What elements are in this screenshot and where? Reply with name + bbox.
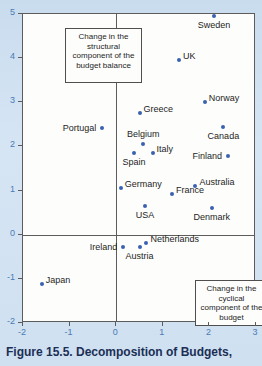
- data-point-label: Japan: [46, 276, 71, 285]
- y-axis-tick-label: 4: [0, 52, 15, 61]
- x-axis-tick-label: 1: [142, 328, 182, 337]
- annotation-cyclical: Change in the cyclical component of the …: [195, 280, 262, 326]
- data-point: [177, 58, 181, 62]
- y-axis-tick-label: 3: [0, 96, 15, 105]
- data-point-label: Canada: [208, 132, 240, 141]
- x-axis-tick: [255, 322, 256, 326]
- data-point-label: Ireland: [90, 243, 118, 252]
- scatter-plot-area: SwedenUKNorwayGreeceCanadaPortugalBelgiu…: [22, 13, 255, 322]
- y-axis-tick-label: 1: [0, 185, 15, 194]
- y-axis-tick: [18, 278, 22, 279]
- data-point: [138, 111, 142, 115]
- data-point: [226, 154, 230, 158]
- data-point-label: Netherlands: [150, 235, 199, 244]
- data-point: [40, 282, 44, 286]
- data-point: [170, 192, 174, 196]
- data-point: [210, 206, 214, 210]
- y-axis-tick: [18, 13, 22, 14]
- y-axis-tick-label: -1: [0, 273, 15, 282]
- data-point-label: Finland: [193, 152, 223, 161]
- data-point-label: Germany: [125, 180, 162, 189]
- data-point: [144, 241, 148, 245]
- y-axis-tick-label: 0: [0, 229, 15, 238]
- x-axis-tick: [115, 322, 116, 326]
- data-point-label: Belgium: [127, 130, 160, 139]
- data-point: [212, 14, 216, 18]
- data-point-label: Australia: [199, 178, 234, 187]
- y-axis-tick-label: -2: [0, 317, 15, 326]
- data-point-label: USA: [136, 211, 155, 220]
- y-axis-tick: [18, 145, 22, 146]
- data-point-label: Portugal: [63, 124, 97, 133]
- y-axis-tick-label: 5: [0, 8, 15, 17]
- data-point: [121, 245, 125, 249]
- x-axis-tick-label: -1: [49, 328, 89, 337]
- x-axis-zero-line: [23, 235, 254, 236]
- data-point-label: Norway: [209, 94, 240, 103]
- y-axis-tick: [18, 57, 22, 58]
- x-axis-tick-label: 0: [95, 328, 135, 337]
- data-point: [151, 151, 155, 155]
- annotation-structural: Change in the structural component of th…: [65, 28, 142, 83]
- data-point-label: Sweden: [198, 21, 231, 30]
- data-point: [138, 245, 142, 249]
- x-axis-tick: [162, 322, 163, 326]
- data-point-label: Austria: [125, 252, 153, 261]
- data-point-label: Italy: [157, 145, 174, 154]
- data-point: [203, 100, 207, 104]
- data-point: [143, 204, 147, 208]
- figure-container: SwedenUKNorwayGreeceCanadaPortugalBelgiu…: [0, 0, 262, 366]
- figure-caption: Figure 15.5. Decomposition of Budgets,: [6, 345, 258, 359]
- x-axis-tick: [208, 322, 209, 326]
- data-point-label: Greece: [144, 105, 174, 114]
- y-axis-tick: [18, 190, 22, 191]
- data-point: [100, 126, 104, 130]
- y-axis-tick: [18, 234, 22, 235]
- data-point-label: UK: [183, 52, 196, 61]
- x-axis-tick-label: -2: [2, 328, 42, 337]
- x-axis-tick-label: 2: [188, 328, 228, 337]
- data-point: [119, 186, 123, 190]
- x-axis-tick: [22, 322, 23, 326]
- data-point: [221, 125, 225, 129]
- data-point-label: Spain: [122, 158, 145, 167]
- data-point-label: France: [176, 186, 204, 195]
- y-axis-tick-label: 2: [0, 140, 15, 149]
- y-axis-tick: [18, 101, 22, 102]
- x-axis-tick-label: 3: [235, 328, 262, 337]
- data-point: [132, 151, 136, 155]
- data-point: [141, 142, 145, 146]
- x-axis-tick: [69, 322, 70, 326]
- data-point-label: Denmark: [193, 213, 230, 222]
